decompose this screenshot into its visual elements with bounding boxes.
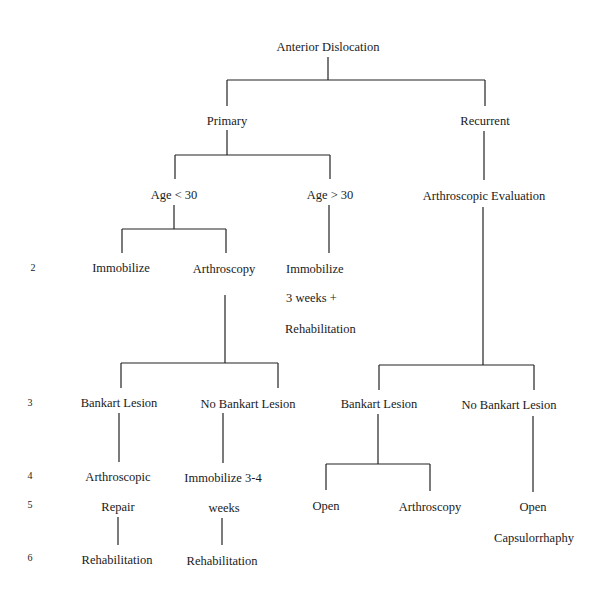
node-age-over-30: Age > 30 bbox=[307, 189, 354, 202]
row-number-3: 3 bbox=[28, 398, 33, 408]
row-number-4: 4 bbox=[28, 471, 33, 481]
node-bankart-lesion-recurrent: Bankart Lesion bbox=[341, 398, 418, 411]
row-number-5: 5 bbox=[28, 500, 33, 510]
decision-tree-diagram: Anterior Dislocation Primary Recurrent A… bbox=[0, 0, 599, 590]
node-anterior-dislocation: Anterior Dislocation bbox=[276, 41, 379, 54]
node-immobilize: Immobilize bbox=[92, 262, 150, 275]
node-immobilize-3-weeks-line2: 3 weeks + bbox=[286, 292, 337, 305]
node-arthroscopy: Arthroscopy bbox=[193, 263, 256, 276]
node-no-bankart-lesion-recurrent: No Bankart Lesion bbox=[461, 399, 556, 412]
node-rehabilitation-a: Rehabilitation bbox=[82, 554, 153, 567]
node-arthroscopic-evaluation: Arthroscopic Evaluation bbox=[423, 190, 546, 203]
node-immobilize-3-weeks-line3: Rehabilitation bbox=[285, 323, 356, 336]
node-arthroscopy-recurrent: Arthroscopy bbox=[399, 501, 462, 514]
node-open-capsulorrhaphy-line1: Open bbox=[519, 501, 546, 514]
node-immobilize-3-4-weeks-line1: Immobilize 3-4 bbox=[184, 472, 261, 485]
node-open-capsulorrhaphy-line2: Capsulorrhaphy bbox=[494, 532, 574, 545]
node-bankart-lesion-primary: Bankart Lesion bbox=[81, 397, 158, 410]
node-immobilize-3-weeks-line1: Immobilize bbox=[286, 263, 344, 276]
node-arthroscopic-repair-line1: Arthroscopic bbox=[85, 471, 150, 484]
node-rehabilitation-b: Rehabilitation bbox=[187, 555, 258, 568]
node-open: Open bbox=[312, 500, 339, 513]
node-no-bankart-lesion-primary: No Bankart Lesion bbox=[200, 398, 295, 411]
row-number-2: 2 bbox=[31, 263, 36, 273]
row-number-6: 6 bbox=[28, 553, 33, 563]
node-primary: Primary bbox=[207, 115, 247, 128]
node-age-under-30: Age < 30 bbox=[151, 189, 198, 202]
node-recurrent: Recurrent bbox=[460, 115, 509, 128]
node-immobilize-3-4-weeks-line2: weeks bbox=[208, 502, 239, 515]
node-arthroscopic-repair-line2: Repair bbox=[101, 501, 134, 514]
